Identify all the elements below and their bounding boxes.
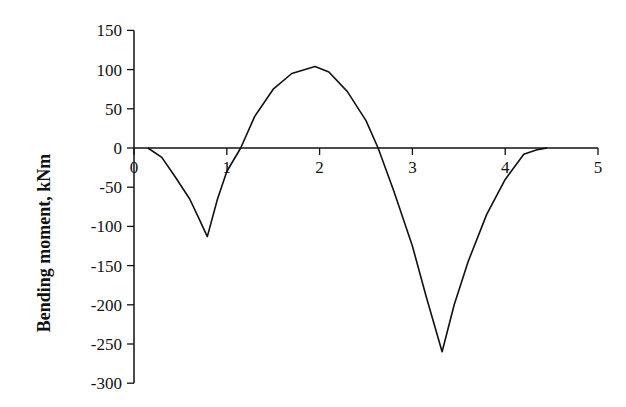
y-tick-label: -250 xyxy=(91,335,122,354)
y-tick-label: -150 xyxy=(91,257,122,276)
y-tick-label: -50 xyxy=(99,178,122,197)
y-tick-label: 0 xyxy=(114,139,123,158)
y-tick-label: 100 xyxy=(97,61,123,80)
y-tick-label: -300 xyxy=(91,374,122,393)
x-tick-label: 0 xyxy=(130,158,139,177)
bending-moment-chart: 150100500-50-100-150-200-250-300 012345 … xyxy=(0,0,626,407)
y-tick-label: -200 xyxy=(91,296,122,315)
x-tick-label: 3 xyxy=(408,158,417,177)
y-axis: 150100500-50-100-150-200-250-300 xyxy=(91,21,134,393)
series-layer xyxy=(148,67,547,352)
y-axis-title: Bending moment, kNm xyxy=(34,154,54,333)
y-tick-label: 50 xyxy=(105,100,122,119)
y-tick-label: -100 xyxy=(91,217,122,236)
x-tick-label: 2 xyxy=(315,158,324,177)
y-tick-label: 150 xyxy=(97,21,123,40)
bending-moment-line xyxy=(148,67,547,352)
x-tick-label: 5 xyxy=(594,158,603,177)
